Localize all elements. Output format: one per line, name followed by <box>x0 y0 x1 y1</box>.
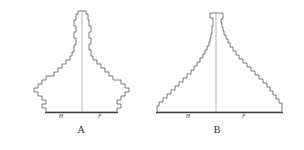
figure-page: H F A H F B <box>0 0 304 150</box>
panel-b-left-axis-label: H <box>183 113 193 119</box>
panel-a-caption: A <box>74 124 88 135</box>
panel-b-right-axis-label: F <box>239 113 249 119</box>
panel-b <box>156 13 283 113</box>
panel-b-caption: B <box>210 124 224 135</box>
population-pyramid-figure <box>0 0 304 150</box>
panel-b-left-outline <box>157 13 216 112</box>
panel-a-right-outline <box>82 11 129 112</box>
panel-a-left-axis-label: H <box>56 113 66 119</box>
panel-b-right-outline <box>216 13 282 112</box>
panel-a-right-axis-label: F <box>95 113 105 119</box>
panel-a <box>34 11 129 113</box>
panel-a-left-outline <box>34 11 82 112</box>
